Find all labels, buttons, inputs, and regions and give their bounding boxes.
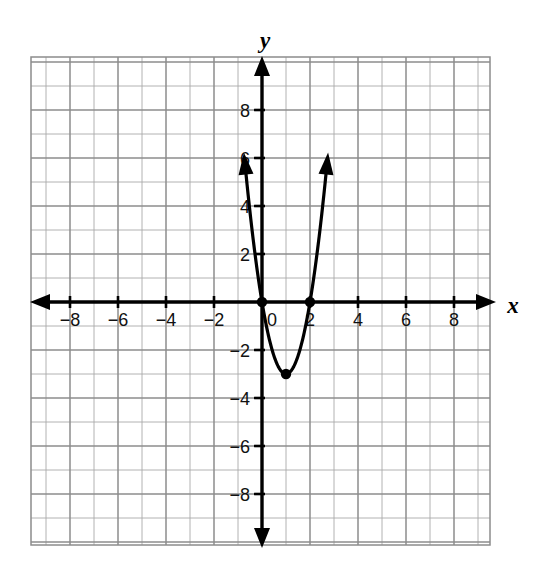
plot-point [281,369,291,379]
figure-background [0,0,538,577]
plot-point [257,297,267,307]
x-tick-label: −2 [204,310,225,330]
x-tick-label: 8 [449,310,459,330]
y-tick-label: −8 [229,485,250,505]
x-tick-label: −6 [108,310,129,330]
x-axis-label: x [506,293,519,318]
plot-point [305,297,315,307]
y-tick-label: −2 [229,341,250,361]
coordinate-plane-figure: −8−6−4−202468−8−6−4−22468 y x [0,0,538,577]
x-tick-label: −8 [60,310,81,330]
y-tick-label: 8 [240,101,250,121]
y-tick-label: 2 [240,245,250,265]
x-tick-label: 6 [401,310,411,330]
x-tick-label: 4 [353,310,363,330]
y-axis-label: y [257,28,271,53]
y-tick-label: −6 [229,437,250,457]
x-tick-label: 0 [267,310,277,330]
y-tick-label: −4 [229,389,250,409]
x-tick-label: −4 [156,310,177,330]
